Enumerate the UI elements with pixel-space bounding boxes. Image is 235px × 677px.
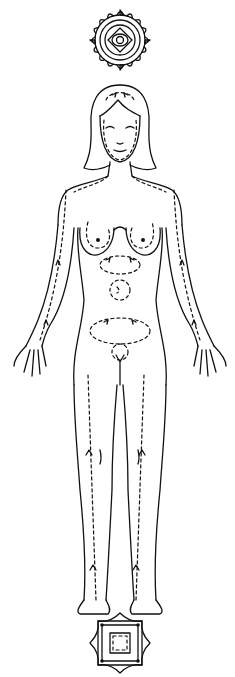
diagram-svg — [0, 0, 235, 677]
head — [84, 85, 156, 170]
crown-mandala-icon — [90, 10, 150, 70]
body-energy-diagram — [0, 0, 235, 677]
legs — [74, 375, 166, 614]
root-mandala-icon — [90, 613, 150, 673]
torso-outline — [58, 162, 182, 385]
arms — [14, 190, 226, 376]
